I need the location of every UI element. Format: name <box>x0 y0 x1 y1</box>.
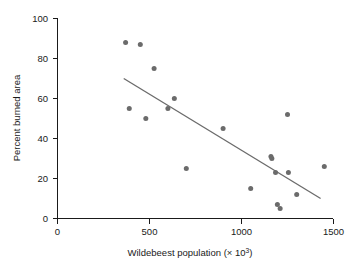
data-point <box>165 106 170 111</box>
data-point <box>273 170 278 175</box>
data-point <box>143 116 148 121</box>
x-axis-title-main: Wildebeest population (× 10 <box>128 247 246 258</box>
x-tick-label-0: 0 <box>55 226 60 237</box>
x-axis-title-close: ) <box>249 247 252 258</box>
data-point <box>127 106 132 111</box>
y-axis-title: Percent burned area <box>11 74 22 161</box>
data-point <box>123 40 128 45</box>
data-point <box>322 164 327 169</box>
data-point <box>172 96 177 101</box>
y-tick-label-20: 20 <box>37 173 48 184</box>
data-series <box>123 40 327 211</box>
y-axis-ticks <box>53 19 58 219</box>
trend-line <box>124 79 321 199</box>
data-point <box>278 206 283 211</box>
data-point <box>184 166 189 171</box>
x-tick-label-1000: 1000 <box>231 226 252 237</box>
y-tick-label-0: 0 <box>43 213 48 224</box>
data-point <box>248 186 253 191</box>
y-tick-label-40: 40 <box>37 133 48 144</box>
x-tick-label-1500: 1500 <box>323 226 344 237</box>
data-point <box>221 126 226 131</box>
data-point <box>269 156 274 161</box>
x-axis-title: Wildebeest population (× 103) <box>128 247 253 259</box>
data-point <box>286 170 291 175</box>
data-point <box>152 66 157 71</box>
y-tick-label-60: 60 <box>37 93 48 104</box>
x-axis-ticks <box>58 219 334 224</box>
y-tick-label-80: 80 <box>37 53 48 64</box>
data-point <box>294 192 299 197</box>
data-point <box>285 112 290 117</box>
chart-figure: 100 80 60 40 20 0 0 500 1000 1500 Wildeb… <box>0 0 358 269</box>
x-tick-label-500: 500 <box>142 226 158 237</box>
scatter-plot: 100 80 60 40 20 0 0 500 1000 1500 Wildeb… <box>0 0 358 269</box>
y-tick-label-100: 100 <box>32 13 48 24</box>
data-point <box>138 42 143 47</box>
